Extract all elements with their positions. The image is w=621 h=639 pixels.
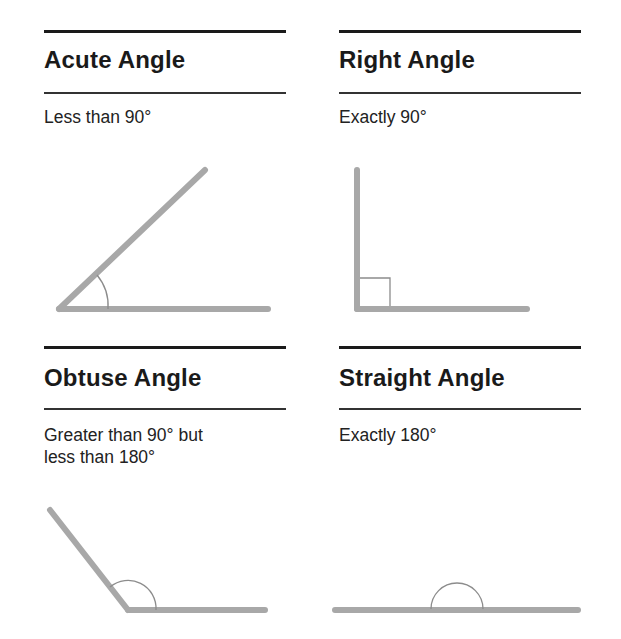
straight-angle-diagram <box>0 0 621 639</box>
angle-arc-marker <box>431 583 483 609</box>
